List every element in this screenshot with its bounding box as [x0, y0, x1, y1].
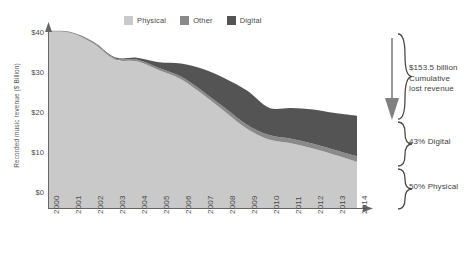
annotation-line-2: Cumulative [409, 74, 458, 85]
annotation-physical-share: 50% Physical [409, 182, 458, 193]
down-arrow-icon [385, 38, 399, 120]
x-tick-2002: 2002 [96, 195, 105, 214]
annotation-digital-share: 43% Digital [409, 137, 451, 148]
x-tick-2008: 2008 [228, 195, 237, 214]
x-tick-2012: 2012 [316, 195, 325, 214]
annotation-line-3: lost revenue [409, 84, 458, 95]
x-tick-2005: 2005 [162, 195, 171, 214]
annotation-line-1: $153.5 billion [409, 63, 458, 74]
x-tick-2004: 2004 [140, 195, 149, 214]
annotation-line-1: 43% Digital [409, 137, 451, 148]
x-tick-2011: 2011 [294, 196, 303, 214]
x-tick-2014: 2014 [360, 195, 369, 214]
annotation-cumulative-lost-revenue: $153.5 billion Cumulative lost revenue [409, 63, 458, 95]
x-tick-2001: 2001 [74, 195, 83, 214]
annotation-line-1: 50% Physical [409, 182, 458, 193]
x-tick-2009: 2009 [250, 195, 259, 214]
stacked-area-plot [0, 0, 471, 260]
area-series-group [49, 31, 357, 208]
x-tick-2010: 2010 [272, 195, 281, 214]
x-tick-2007: 2007 [206, 195, 215, 214]
chart-canvas: Physical Other Digital Recorded music re… [0, 0, 471, 260]
x-tick-2013: 2013 [338, 195, 347, 214]
x-tick-2003: 2003 [118, 195, 127, 214]
x-tick-2006: 2006 [184, 195, 193, 214]
x-tick-2000: 2000 [52, 195, 61, 214]
